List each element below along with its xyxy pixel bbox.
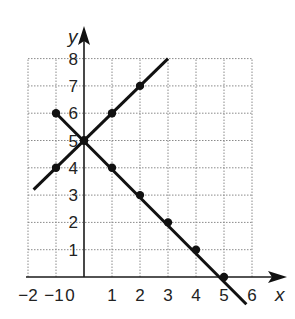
grid [28, 59, 252, 277]
data-point [136, 191, 144, 199]
y-tick-label: 3 [69, 186, 78, 205]
x-tick-label: −2 [18, 286, 37, 305]
y-tick-label: 7 [69, 77, 78, 96]
x-tick-label: −1 [44, 286, 63, 305]
axes [26, 26, 287, 283]
data-point [192, 246, 200, 254]
data-point [164, 218, 172, 226]
y-tick-label: 1 [69, 241, 78, 260]
x-tick-label: 0 [65, 286, 74, 305]
data-point [80, 136, 88, 144]
y-tick-label: 8 [69, 50, 78, 69]
y-tick-label: 4 [69, 159, 78, 178]
x-tick-label: 5 [219, 286, 228, 305]
y-axis-label: y [66, 26, 79, 47]
data-point [220, 273, 228, 281]
data-point [108, 164, 116, 172]
x-tick-label: 3 [163, 286, 172, 305]
y-tick-label: 6 [69, 104, 78, 123]
x-tick-label: 4 [191, 286, 200, 305]
x-tick-label: 6 [247, 286, 256, 305]
data-point [52, 109, 60, 117]
y-tick-label: 5 [69, 132, 78, 151]
data-point [108, 109, 116, 117]
x-axis-label: x [274, 284, 286, 305]
coordinate-graph: −2−1012345612345678 x y [0, 0, 295, 319]
x-tick-label: 1 [107, 286, 116, 305]
data-point [52, 164, 60, 172]
data-point [136, 82, 144, 90]
y-tick-label: 2 [69, 213, 78, 232]
x-tick-label: 2 [135, 286, 144, 305]
